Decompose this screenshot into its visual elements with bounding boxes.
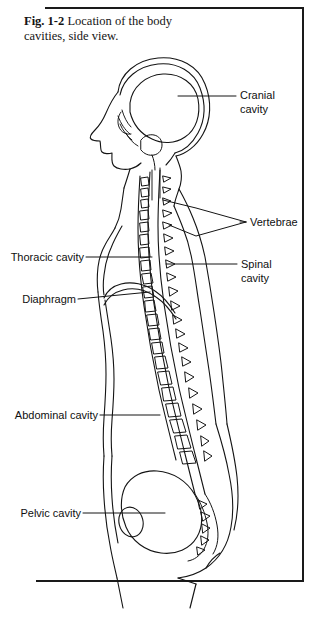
- sacrum-coccyx: [188, 494, 218, 561]
- anterior-abdominal-wall: [98, 292, 114, 456]
- hip-joint-socket: [116, 505, 147, 540]
- facial-profile: [90, 92, 141, 188]
- vertebral-body-column-line: [138, 176, 176, 460]
- label-abdominal-cavity: Abdominal cavity: [0, 408, 98, 422]
- anterior-neck-contour: [115, 188, 124, 228]
- label-spinal-cavity: Spinal cavity: [241, 257, 272, 285]
- label-thoracic-cavity: Thoracic cavity: [0, 250, 84, 264]
- posterior-back-contour: [174, 189, 227, 424]
- pelvis-ilium: [121, 471, 201, 553]
- label-diaphragm: Diaphragm: [0, 292, 76, 306]
- leader-vertebrae-lower: [169, 222, 246, 236]
- leader-vertebrae-upper: [163, 200, 246, 222]
- label-pelvic-cavity: Pelvic cavity: [0, 506, 81, 520]
- label-vertebrae: Vertebrae: [250, 215, 298, 229]
- label-cranial-cavity: Cranial cavity: [240, 88, 275, 116]
- cranial-cavity-outline: [130, 74, 199, 143]
- leader-diaphragm: [78, 292, 150, 299]
- spinous-processes: [163, 176, 212, 461]
- facial-bone-detail: [118, 110, 138, 146]
- skull-base-detail: [141, 135, 162, 170]
- leg-contours: [117, 553, 220, 608]
- anterior-thigh-contour: [103, 456, 118, 578]
- figure-page: Fig. 1-2 Location of the body cavities, …: [0, 0, 314, 627]
